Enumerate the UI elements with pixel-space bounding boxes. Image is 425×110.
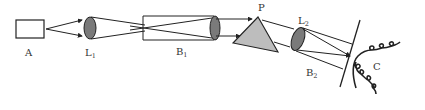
source-label: A [24,47,33,58]
beam-l1-top [91,17,145,25]
beam2-label: B2 [306,67,318,80]
beam1-label: B1 [176,46,188,59]
beam2-outer-top [303,28,352,44]
lens-l2-label: L2 [298,15,309,28]
coil-label: C [373,61,381,72]
ray-p-l2-top [262,20,294,29]
ray-a-l1-bottom [46,29,82,36]
lens-l1 [84,17,96,39]
ray-p-l2-bottom [274,42,290,47]
beam2-outer-bottom [296,51,343,69]
lens-l1-label: L1 [85,47,96,60]
optical-diagram: A L1 B1 P L2 B2 C [0,0,425,110]
prism-label: P [258,2,265,13]
slit-plate [340,20,360,87]
beam1-cross-b [130,26,212,38]
beam-l1-bottom [91,31,145,39]
source-box [16,20,44,38]
ray-a-l1-top [46,20,82,29]
